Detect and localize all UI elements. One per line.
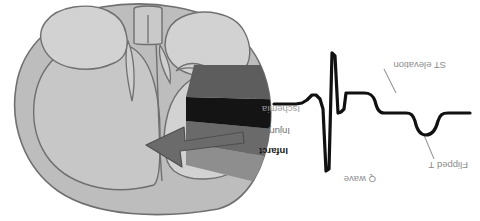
figure-canvas: Flipped T Q wave ST elevation <box>0 0 480 221</box>
injury-label: Injury <box>267 126 290 137</box>
rotated-illustration: Flipped T Q wave ST elevation <box>0 0 480 221</box>
flipped-t-leader-line <box>424 135 434 159</box>
flipped-t-label: Flipped T <box>429 160 468 171</box>
chamber-lower-right <box>41 6 127 69</box>
ecg-panel: Flipped T Q wave ST elevation <box>272 0 472 221</box>
q-wave-label: Q wave <box>344 174 376 185</box>
infarct-label: Infarct <box>259 146 288 157</box>
heart-svg <box>0 0 282 221</box>
ischemia-label: Ischemia <box>262 104 300 115</box>
st-elevation-leader-line <box>384 69 396 93</box>
heart-panel: Infarct Injury Ischemia <box>0 0 282 221</box>
ecg-svg <box>272 0 472 221</box>
st-elevation-label: ST elevation <box>393 60 446 71</box>
